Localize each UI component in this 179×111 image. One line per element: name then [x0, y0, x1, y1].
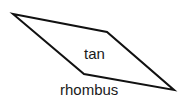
diagram-canvas: tan rhombus: [0, 0, 179, 111]
shape-label: rhombus: [60, 81, 118, 98]
color-label: tan: [84, 45, 105, 62]
